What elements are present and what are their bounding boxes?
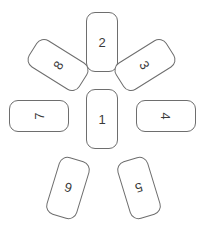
card-5[interactable]: 5	[115, 155, 163, 222]
card-label: 5	[134, 181, 145, 196]
card-1[interactable]: 1	[86, 89, 118, 149]
card-label: 6	[63, 181, 74, 196]
radial-card-diagram: 12345678	[0, 0, 207, 239]
card-label: 2	[98, 36, 105, 49]
card-label: 4	[160, 112, 173, 119]
card-label: 1	[98, 113, 105, 126]
card-4[interactable]: 4	[136, 100, 196, 132]
card-6[interactable]: 6	[44, 155, 92, 222]
card-7[interactable]: 7	[9, 100, 69, 132]
card-label: 3	[138, 58, 153, 71]
card-label: 7	[33, 112, 46, 119]
card-label: 8	[51, 58, 66, 71]
card-8[interactable]: 8	[24, 36, 92, 95]
card-2[interactable]: 2	[86, 12, 118, 72]
card-3[interactable]: 3	[111, 36, 179, 95]
